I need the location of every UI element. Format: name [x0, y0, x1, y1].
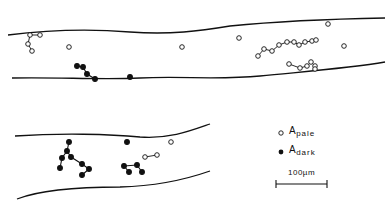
lower-vessel-top-wall: [15, 124, 210, 137]
diagram-canvas: Apale Adark 100µm: [0, 0, 392, 204]
lower-vessel-bottom-wall: [17, 171, 210, 199]
scale-bar: [276, 180, 327, 188]
pale-cells: [26, 22, 347, 160]
legend-dark-symbol: [279, 150, 284, 155]
legend-pale-symbol: [279, 131, 283, 135]
legend-pale-label: Apale: [289, 125, 315, 138]
legend-dark-label: Adark: [289, 144, 316, 157]
scale-bar-label: 100µm: [288, 168, 315, 177]
vessel-diagram: [0, 0, 392, 204]
dark-cells: [58, 64, 145, 178]
upper-vessel-bottom-wall: [12, 62, 385, 79]
